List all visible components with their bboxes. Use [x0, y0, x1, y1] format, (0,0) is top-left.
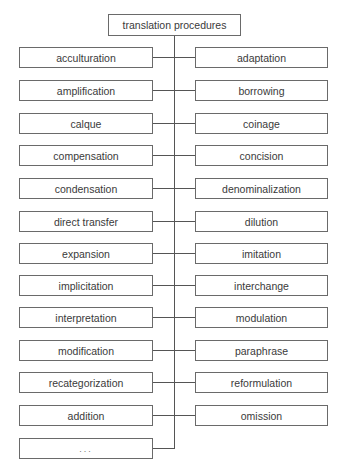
- connector-line: [174, 155, 195, 156]
- left-node: implicitation: [19, 275, 153, 296]
- connector-line: [174, 350, 195, 351]
- connector-line: [174, 382, 195, 383]
- connector-line: [174, 123, 195, 124]
- connector-line: [153, 57, 174, 58]
- right-node: modulation: [195, 307, 328, 328]
- left-node: condensation: [19, 178, 153, 199]
- connector-line: [153, 285, 174, 286]
- connector-line: [153, 155, 174, 156]
- right-node: paraphrase: [195, 340, 328, 361]
- left-node: acculturation: [19, 47, 153, 68]
- right-node: omission: [195, 405, 328, 426]
- connector-line: [174, 90, 195, 91]
- left-node: ...: [19, 438, 153, 459]
- right-node: borrowing: [195, 80, 328, 101]
- connector-line: [174, 253, 195, 254]
- connector-line: [153, 350, 174, 351]
- connector-line: [153, 188, 174, 189]
- connector-line: [153, 415, 174, 416]
- right-node: reformulation: [195, 372, 328, 393]
- connector-line: [153, 382, 174, 383]
- connector-line: [174, 188, 195, 189]
- connector-line: [153, 221, 174, 222]
- connector-line: [153, 123, 174, 124]
- connector-line: [174, 285, 195, 286]
- connector-line: [174, 221, 195, 222]
- right-node: coinage: [195, 113, 328, 134]
- right-node: concision: [195, 145, 328, 166]
- left-node: recategorization: [19, 372, 153, 393]
- right-node: adaptation: [195, 47, 328, 68]
- root-node: translation procedures: [108, 14, 241, 36]
- right-node: denominalization: [195, 178, 328, 199]
- connector-line: [174, 57, 195, 58]
- connector-line: [174, 317, 195, 318]
- right-node: dilution: [195, 211, 328, 232]
- right-node: interchange: [195, 275, 328, 296]
- trunk-line: [174, 36, 175, 449]
- left-node: addition: [19, 405, 153, 426]
- connector-line: [153, 90, 174, 91]
- left-node: direct transfer: [19, 211, 153, 232]
- connector-line: [153, 448, 174, 449]
- left-node: calque: [19, 113, 153, 134]
- left-node: amplification: [19, 80, 153, 101]
- left-node: expansion: [19, 243, 153, 264]
- connector-line: [153, 317, 174, 318]
- left-node: interpretation: [19, 307, 153, 328]
- connector-line: [174, 415, 195, 416]
- connector-line: [153, 253, 174, 254]
- left-node: modification: [19, 340, 153, 361]
- left-node: compensation: [19, 145, 153, 166]
- right-node: imitation: [195, 243, 328, 264]
